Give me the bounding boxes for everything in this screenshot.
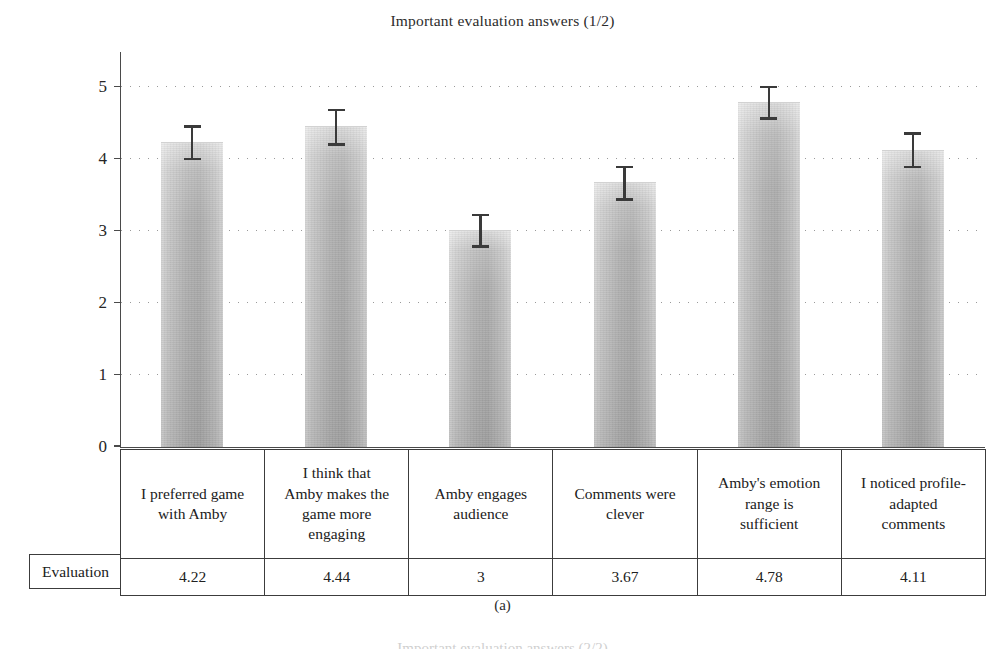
category-line: sufficient	[740, 515, 798, 532]
category-value-table: I preferred gamewith AmbyI think thatAmb…	[120, 449, 986, 596]
table-row-categories: I preferred gamewith AmbyI think thatAmb…	[121, 450, 986, 559]
y-axis-tick	[114, 302, 120, 303]
error-bar-cap-bottom	[328, 143, 345, 146]
category-line: Comments were	[574, 485, 675, 502]
value-cell: 3.67	[553, 559, 697, 596]
gridline	[121, 158, 985, 159]
y-axis-tick	[114, 445, 120, 446]
category-line: Amby makes the	[284, 485, 389, 502]
category-cell: I think thatAmby makes thegame moreengag…	[265, 450, 409, 559]
value-cell: 4.11	[841, 559, 985, 596]
category-cell: I preferred gamewith Amby	[121, 450, 265, 559]
bar	[305, 126, 367, 446]
y-axis-tick-label: 0	[99, 437, 108, 457]
category-cell: Amby engagesaudience	[409, 450, 553, 559]
gridline	[121, 302, 985, 303]
gridline	[121, 86, 985, 87]
y-axis-tick	[114, 86, 120, 87]
bar	[738, 102, 800, 447]
value-cell: 4.22	[121, 559, 265, 596]
error-bar-cap-top	[616, 166, 633, 169]
error-bar-stem	[768, 87, 770, 119]
value-cell: 4.44	[265, 559, 409, 596]
next-figure-title: Important evaluation answers (2/2)	[0, 640, 1005, 649]
bar	[449, 230, 511, 447]
error-bar-cap-bottom	[184, 158, 201, 161]
y-axis-tick-label: 4	[99, 149, 108, 169]
error-bar-stem	[623, 167, 625, 199]
error-bar-stem	[912, 134, 914, 167]
subfigure-caption: (a)	[0, 597, 1005, 614]
category-line: audience	[453, 505, 508, 522]
category-line: Amby's emotion	[718, 474, 820, 491]
y-axis-tick-label: 5	[99, 77, 108, 97]
gridline	[121, 374, 985, 375]
y-axis-tick	[114, 374, 120, 375]
error-bar-cap-top	[472, 214, 489, 217]
y-axis-tick	[114, 158, 120, 159]
table-row-values: 4.224.4433.674.784.11	[121, 559, 986, 596]
bar	[594, 182, 656, 447]
y-axis-tick-label: 1	[99, 365, 108, 385]
category-line: clever	[606, 505, 644, 522]
gridline	[121, 230, 985, 231]
category-cell: I noticed profile-adaptedcomments	[841, 450, 985, 559]
error-bar-cap-bottom	[472, 245, 489, 248]
y-axis-tick	[114, 230, 120, 231]
category-line: comments	[882, 515, 946, 532]
error-bar-cap-top	[904, 132, 921, 135]
error-bar-cap-bottom	[616, 198, 633, 201]
category-line: game more	[302, 505, 371, 522]
error-bar-stem	[479, 215, 481, 247]
table-row-header: Evaluation	[29, 554, 121, 589]
category-cell: Amby's emotionrange issufficient	[697, 450, 841, 559]
error-bar-cap-top	[184, 125, 201, 128]
category-line: I think that	[303, 464, 371, 481]
table-row-header-label: Evaluation	[42, 563, 109, 581]
error-bar-cap-bottom	[760, 117, 777, 120]
category-line: with Amby	[158, 505, 227, 522]
plot-area: 012345	[120, 52, 985, 448]
category-line: engaging	[308, 525, 365, 542]
bar	[161, 142, 223, 447]
category-cell: Comments wereclever	[553, 450, 697, 559]
error-bar-cap-top	[760, 86, 777, 89]
figure-container: Important evaluation answers (1/2) 01234…	[0, 0, 1005, 649]
category-line: range is	[745, 495, 794, 512]
y-axis-line	[120, 52, 121, 448]
x-axis-line	[120, 447, 985, 448]
value-cell: 4.78	[697, 559, 841, 596]
y-axis-tick-label: 3	[99, 221, 108, 241]
value-cell: 3	[409, 559, 553, 596]
chart-title: Important evaluation answers (1/2)	[0, 12, 1005, 30]
error-bar-cap-top	[328, 109, 345, 112]
y-axis-tick-label: 2	[99, 293, 108, 313]
error-bar-cap-bottom	[904, 166, 921, 169]
category-line: I preferred game	[141, 485, 244, 502]
bar	[882, 150, 944, 447]
category-line: Amby engages	[435, 485, 528, 502]
error-bar-stem	[335, 110, 337, 145]
category-line: I noticed profile-	[861, 474, 966, 491]
error-bar-stem	[191, 127, 193, 159]
category-line: adapted	[889, 495, 937, 512]
